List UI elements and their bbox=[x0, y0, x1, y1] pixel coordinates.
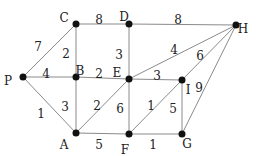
edge-weight-D-H: 8 bbox=[174, 13, 182, 27]
edge-weight-F-G: 1 bbox=[149, 138, 157, 152]
edge-weight-A-E: 2 bbox=[93, 99, 101, 113]
edge-weight-B-A: 3 bbox=[61, 100, 69, 114]
node-A bbox=[73, 130, 80, 137]
node-label-A: A bbox=[59, 138, 69, 152]
weighted-graph: 8872342436913261551 CDHPBEIAFG bbox=[0, 0, 265, 155]
node-label-F: F bbox=[121, 143, 129, 156]
edge-weight-P-A: 1 bbox=[37, 107, 45, 121]
node-I bbox=[179, 77, 186, 84]
edge-weight-B-E: 2 bbox=[95, 67, 103, 81]
node-label-H: H bbox=[238, 22, 248, 36]
node-E bbox=[126, 76, 133, 83]
node-label-E: E bbox=[113, 66, 122, 80]
edge-weight-F-I: 1 bbox=[147, 99, 155, 113]
edge-G-H bbox=[182, 25, 236, 134]
edge-weight-P-C: 7 bbox=[34, 40, 42, 54]
edge-A-F bbox=[76, 133, 129, 134]
edge-D-H bbox=[129, 24, 236, 25]
node-label-I: I bbox=[186, 83, 191, 97]
edge-weight-A-F: 5 bbox=[95, 138, 103, 152]
edge-weight-P-B: 4 bbox=[42, 67, 50, 81]
node-label-G: G bbox=[182, 137, 192, 151]
node-label-P: P bbox=[4, 74, 12, 88]
edge-weight-D-E: 3 bbox=[115, 48, 123, 62]
node-C bbox=[73, 21, 80, 28]
node-label-D: D bbox=[119, 10, 129, 24]
edge-weights-layer: 8872342436913261551 bbox=[34, 13, 204, 152]
edge-weight-C-B: 2 bbox=[62, 47, 70, 61]
edge-E-H bbox=[129, 25, 236, 79]
node-label-B: B bbox=[76, 64, 85, 78]
edge-weight-G-H: 9 bbox=[195, 81, 203, 95]
edge-weight-E-I: 3 bbox=[153, 69, 161, 83]
node-F bbox=[126, 131, 133, 138]
edge-weight-I-H: 6 bbox=[196, 49, 204, 63]
edge-I-H bbox=[182, 25, 236, 80]
node-P bbox=[20, 74, 27, 81]
edge-weight-I-G: 5 bbox=[169, 102, 177, 116]
edge-weight-E-F: 6 bbox=[116, 102, 124, 116]
edge-weight-C-D: 8 bbox=[95, 13, 103, 27]
node-label-C: C bbox=[59, 11, 68, 25]
edge-weight-E-H: 4 bbox=[170, 43, 178, 57]
